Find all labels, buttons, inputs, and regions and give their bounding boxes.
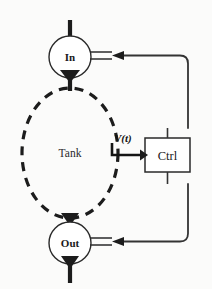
outlet-command-path <box>117 184 188 242</box>
controller-label: Ctrl <box>158 149 178 163</box>
outlet-valve-label: Out <box>61 237 80 249</box>
tank-label: Tank <box>59 147 82 159</box>
figure-root: Tank In Out Ctrl <box>0 0 212 289</box>
inlet-command-path <box>117 56 188 129</box>
outlet-command-arrowhead-icon <box>112 237 124 246</box>
inlet-valve-label: In <box>65 51 75 63</box>
diagram-canvas: Tank In Out Ctrl <box>0 0 212 289</box>
measurement-signal-path <box>112 143 140 155</box>
measurement-signal-label: V(t) <box>114 132 132 145</box>
inlet-command-arrowhead-icon <box>112 51 124 60</box>
